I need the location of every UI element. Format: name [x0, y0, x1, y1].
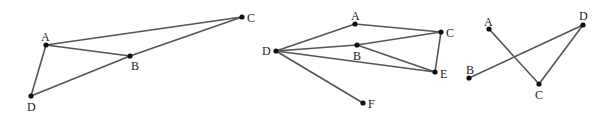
point-label-A: A [484, 15, 493, 29]
point-label-D: D [579, 9, 588, 23]
figure-1: ABCD [27, 11, 255, 114]
segment-BC [130, 17, 242, 56]
point-label-E: E [440, 67, 447, 81]
point-C [536, 81, 541, 86]
segment-AC [46, 17, 242, 45]
segment-CD [539, 25, 583, 84]
figure-3: ABCD [466, 9, 588, 102]
segment-AC [355, 24, 441, 32]
point-D [580, 22, 585, 27]
point-D [273, 48, 278, 53]
point-label-F: F [368, 97, 375, 111]
point-label-A: A [41, 30, 50, 44]
segment-AD [31, 45, 46, 96]
point-D [28, 93, 33, 98]
segment-DF [276, 51, 363, 103]
point-label-D: D [27, 100, 36, 114]
segment-BE [357, 45, 435, 72]
point-E [432, 69, 437, 74]
point-label-D: D [262, 44, 271, 58]
point-label-C: C [535, 88, 543, 102]
geometry-diagram: ABCDABCDEFABCD [0, 0, 608, 115]
point-C [239, 14, 244, 19]
point-label-A: A [351, 9, 360, 23]
point-B [127, 53, 132, 58]
segment-DA [276, 24, 355, 51]
point-label-B: B [353, 49, 361, 63]
point-F [360, 100, 365, 105]
segment-DB [276, 45, 357, 51]
segment-DB [31, 56, 130, 96]
point-label-C: C [446, 26, 454, 40]
segment-AB [46, 45, 130, 56]
point-B [354, 42, 359, 47]
point-label-B: B [466, 63, 474, 77]
point-label-B: B [131, 59, 139, 73]
point-C [438, 29, 443, 34]
segment-BC [357, 32, 441, 45]
point-label-C: C [247, 11, 255, 25]
segment-CE [435, 32, 441, 72]
figure-2: ABCDEF [262, 9, 454, 111]
